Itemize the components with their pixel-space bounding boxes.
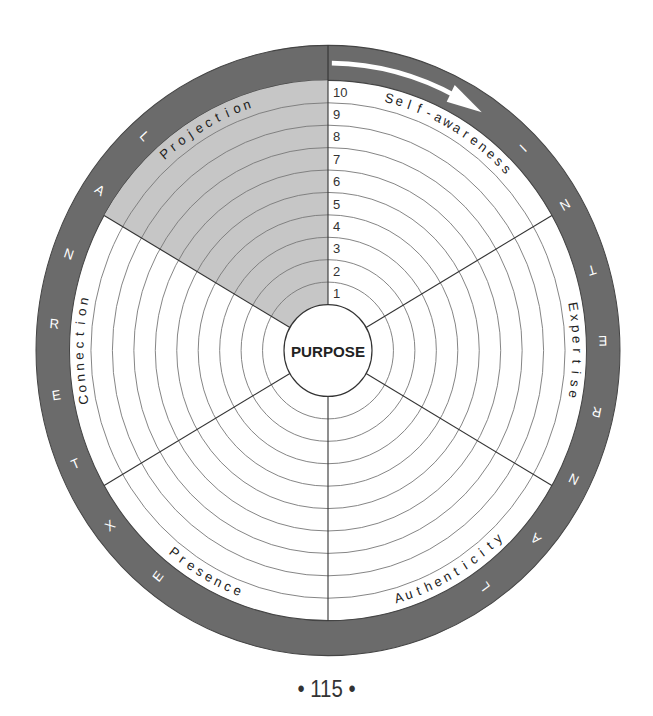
scale-number: 7 [333, 152, 340, 167]
svg-text:r: r [570, 348, 585, 353]
svg-text:n: n [73, 373, 88, 382]
center-label: PURPOSE [291, 343, 365, 360]
scale-number: 1 [333, 286, 340, 301]
scale-number: 8 [333, 129, 340, 144]
svg-text:p: p [568, 324, 583, 333]
wheel-diagram: Self-awarenessExpertiseAuthenticityPrese… [0, 0, 653, 716]
scale-number: 6 [333, 174, 340, 189]
svg-text:c: c [72, 341, 87, 348]
scale-number: 10 [333, 85, 347, 100]
svg-text:n: n [72, 363, 87, 372]
scale-number: 2 [333, 264, 340, 279]
scale-number: 5 [333, 197, 340, 212]
page-number: • 115 • [49, 675, 604, 703]
svg-text:e: e [72, 352, 87, 360]
scale-number: 3 [333, 241, 340, 256]
ring-letter: R [49, 316, 60, 332]
scale-number: 9 [333, 107, 340, 122]
scale-number: 4 [333, 219, 340, 234]
svg-text:e: e [569, 335, 584, 343]
ring-letter: E [598, 333, 607, 349]
